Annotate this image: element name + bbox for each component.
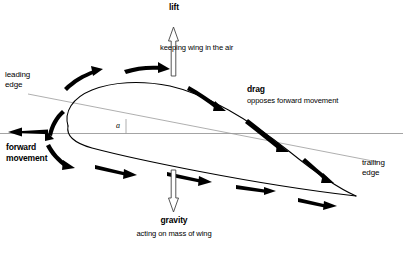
forward-movement-label-line2: movement — [6, 154, 47, 164]
reference-lines — [0, 94, 403, 162]
airflow-arrow-lower-3-head — [264, 187, 276, 195]
airflow-arrow-nose-lower-head — [62, 160, 75, 170]
airflow-arrow-upper-4 — [245, 119, 282, 150]
forward-movement-arrow — [8, 128, 48, 137]
airflow-arrows-upper — [64, 62, 334, 183]
forward-movement-label-line1: forward — [6, 143, 36, 153]
drag-label: drag — [247, 85, 265, 95]
drag-sublabel: opposes forward movement — [247, 97, 338, 106]
gravity-label: gravity — [146, 216, 202, 226]
airflow-arrow-nose-upper — [48, 110, 65, 136]
lift-label: lift — [146, 3, 202, 13]
airflow-arrow-upper-2 — [124, 66, 162, 74]
airflow-arrow-lower-3 — [236, 185, 268, 193]
leading-edge-label-line2: edge — [5, 81, 22, 90]
trailing-edge-label-line2: edge — [362, 169, 379, 178]
diagram-canvas — [0, 0, 405, 253]
forward-movement-arrow-head — [8, 128, 22, 137]
leading-edge-label-line1: leading — [5, 71, 30, 80]
airflow-arrow-upper-3-head — [213, 101, 226, 111]
airflow-arrow-upper-1-head — [91, 66, 103, 76]
angle-of-attack-label: a — [116, 121, 120, 130]
airflow-arrow-lower-2-head — [198, 176, 212, 186]
airflow-arrows-nose — [45, 110, 75, 170]
airflow-arrow-upper-2-head — [158, 62, 170, 73]
trailing-edge-label-line1: trailing — [362, 159, 385, 168]
gravity-sublabel: acting on mass of wing — [117, 230, 231, 239]
lift-sublabel: keeping wing in the air — [160, 44, 233, 53]
airflow-arrow-lower-1 — [95, 165, 128, 176]
airfoil-diagram-page: lift keeping wing in the air gravity act… — [0, 0, 405, 253]
airflow-arrow-lower-1-head — [123, 169, 137, 179]
airflow-arrow-upper-1 — [64, 70, 96, 91]
airflow-arrow-upper-5-head — [321, 173, 334, 183]
airfoil-lower-surface — [68, 126, 356, 196]
airflow-arrow-lower-4-head — [323, 201, 337, 210]
airflow-arrows-lower — [95, 165, 337, 210]
